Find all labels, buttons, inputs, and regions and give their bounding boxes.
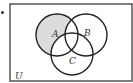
set-b-label: B	[83, 28, 91, 38]
venn-diagram: A B C U	[0, 0, 133, 83]
set-c-label: C	[69, 56, 76, 66]
set-a-label: A	[51, 29, 59, 39]
universe-label: U	[15, 71, 23, 81]
